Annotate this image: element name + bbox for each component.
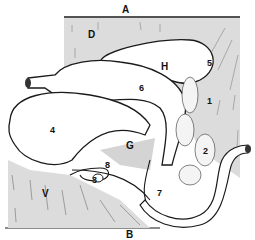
label-h: H bbox=[161, 62, 168, 72]
label-4: 4 bbox=[50, 125, 55, 135]
tube-opening-left bbox=[25, 78, 31, 88]
label-g: G bbox=[126, 141, 134, 151]
label-7: 7 bbox=[157, 188, 162, 198]
label-5: 5 bbox=[207, 58, 212, 68]
tube-opening-right bbox=[245, 145, 251, 153]
region-label-v: V bbox=[42, 189, 49, 199]
label-3: 3 bbox=[92, 175, 97, 185]
orientation-label-a: A bbox=[122, 5, 129, 15]
label-6: 6 bbox=[139, 83, 144, 93]
label-2: 2 bbox=[203, 146, 208, 156]
anatomy-diagram bbox=[0, 0, 255, 240]
region-label-d: D bbox=[88, 30, 95, 40]
label-8: 8 bbox=[105, 160, 110, 170]
label-1: 1 bbox=[207, 96, 212, 106]
organ-7-tube bbox=[140, 145, 248, 227]
orientation-label-b: B bbox=[126, 230, 133, 240]
